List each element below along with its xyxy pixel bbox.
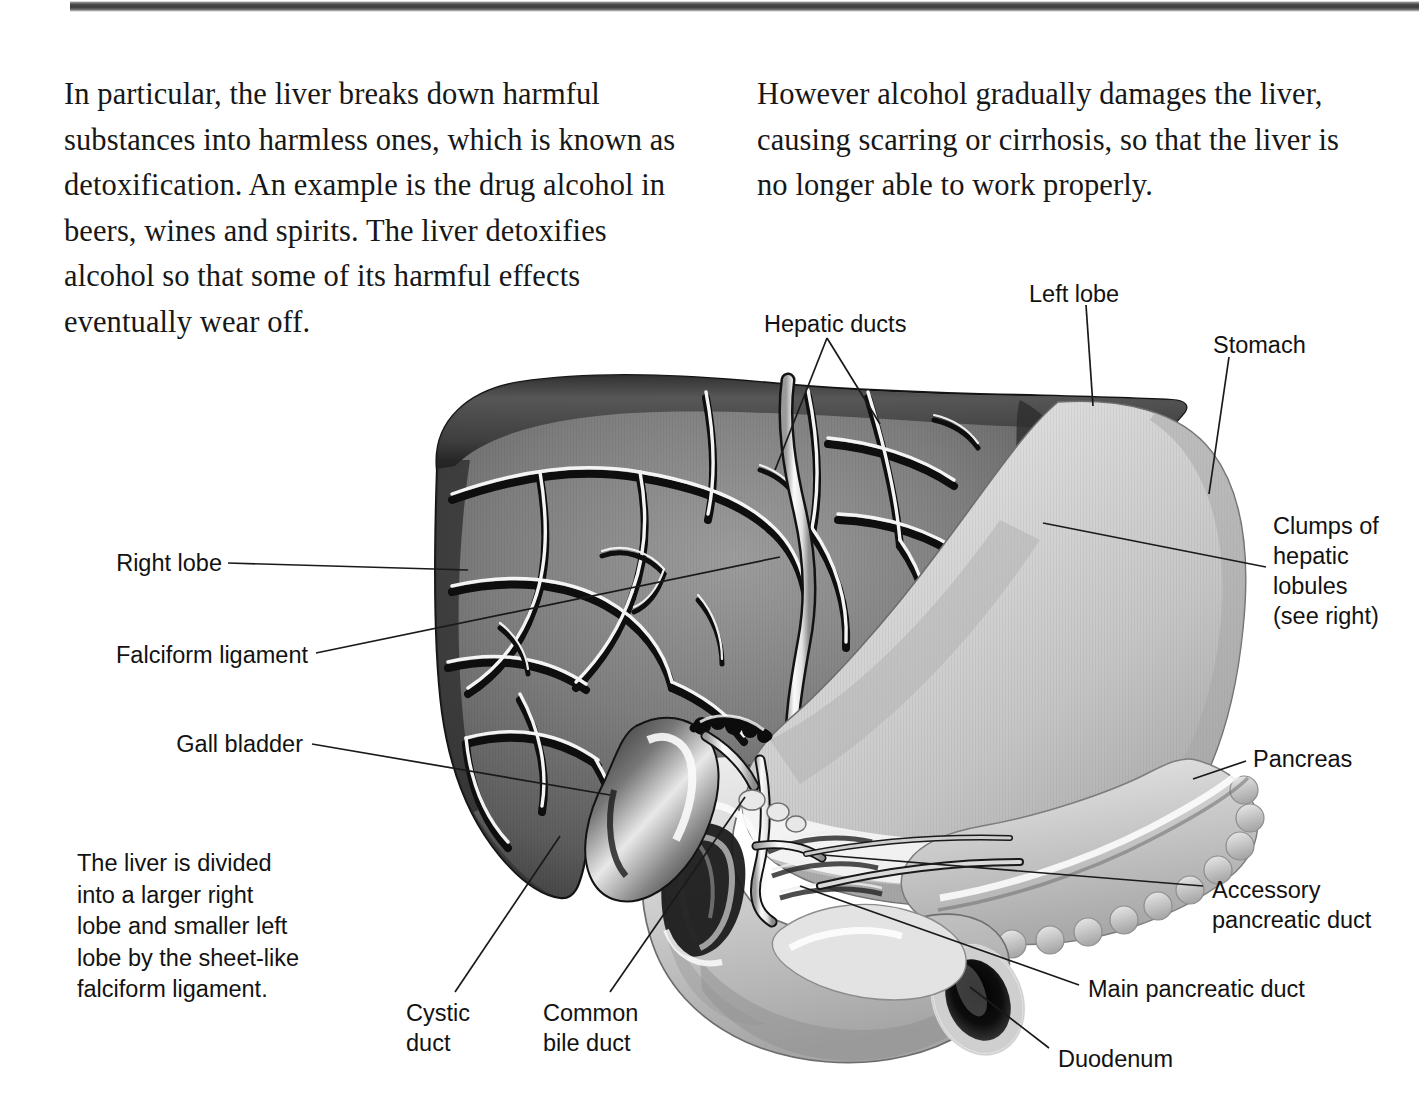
label-duodenum: Duodenum xyxy=(1058,1044,1173,1074)
label-right-lobe: Right lobe xyxy=(0,548,222,578)
leader-accessory-duct xyxy=(823,855,1203,886)
label-stomach: Stomach xyxy=(1213,330,1306,360)
leader-clumps xyxy=(1043,523,1266,567)
pancreas-organ xyxy=(901,759,1264,958)
label-cystic-duct: Cystic duct xyxy=(406,998,470,1058)
label-gall-bladder: Gall bladder xyxy=(0,729,303,759)
label-pancreas: Pancreas xyxy=(1253,744,1352,774)
label-main-pancreatic-duct: Main pancreatic duct xyxy=(1088,974,1305,1004)
falciform-ligament-shape xyxy=(786,380,809,760)
leader-common-bile-duct xyxy=(610,797,745,992)
label-falciform-ligament: Falciform ligament xyxy=(0,640,308,670)
bile-duct-tree xyxy=(693,714,1020,922)
textbook-page: In particular, the liver breaks down har… xyxy=(0,0,1419,1107)
label-hepatic-ducts: Hepatic ducts xyxy=(764,309,906,339)
duodenum-cut-end xyxy=(916,932,1040,1069)
label-accessory-pancreatic-duct: Accessory pancreatic duct xyxy=(1212,875,1371,935)
gall-bladder-organ xyxy=(585,718,718,902)
page-edge-bar xyxy=(0,0,1419,13)
label-clumps-of-hepatic-lobules: Clumps of hepatic lobules (see right) xyxy=(1273,511,1379,631)
leader-pancreas xyxy=(1193,761,1246,779)
duodenum-cutaway-window xyxy=(661,823,745,957)
leader-cystic-duct xyxy=(455,836,560,992)
body-paragraph-right: However alcohol gradually damages the li… xyxy=(757,72,1367,209)
duodenum-organ xyxy=(642,756,1040,1068)
leader-hepatic-ducts-a xyxy=(827,338,880,424)
leader-stomach xyxy=(1209,357,1229,494)
leader-left-lobe xyxy=(1086,305,1093,406)
leader-duodenum xyxy=(970,987,1049,1048)
leader-falciform xyxy=(316,557,780,653)
leader-hepatic-ducts-b xyxy=(775,338,827,470)
caption-liver-lobes: The liver is divided into a larger right… xyxy=(77,848,337,1006)
body-paragraph-left: In particular, the liver breaks down har… xyxy=(64,72,704,345)
leader-right-lobe xyxy=(228,563,468,570)
stomach-organ xyxy=(732,392,1254,918)
leader-gall-bladder xyxy=(312,744,610,795)
label-common-bile-duct: Common bile duct xyxy=(543,998,638,1058)
leader-main-pancreatic-duct xyxy=(800,886,1079,985)
liver-organ xyxy=(420,374,1190,1000)
label-left-lobe: Left lobe xyxy=(1029,279,1119,309)
